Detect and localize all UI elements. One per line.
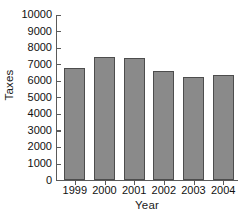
y-axis-tick-label: 4000	[8, 108, 52, 119]
y-axis-tick-mark	[56, 64, 61, 65]
y-axis-tick-mark	[56, 81, 61, 82]
y-axis-tick-mark	[56, 48, 61, 49]
bar	[64, 68, 85, 180]
y-axis-tick-label: 6000	[8, 75, 52, 86]
x-axis-tick-label: 2001	[119, 184, 149, 196]
y-axis-tick-mark	[56, 31, 61, 32]
x-axis-tick-label: 1999	[60, 184, 90, 196]
y-axis-tick-mark	[56, 114, 61, 115]
bar	[94, 57, 115, 180]
x-axis-tick-label: 2003	[179, 184, 209, 196]
bar-chart-figure: Taxes 1000090008000700060005000400030002…	[0, 0, 248, 219]
y-axis-tick-label: 5000	[8, 92, 52, 103]
y-axis-tick-label-group: 1000090008000700060005000400030002000100…	[8, 9, 52, 183]
x-axis-title: Year	[56, 199, 238, 211]
x-axis-line	[56, 180, 238, 181]
plot-area	[56, 15, 238, 182]
y-axis-tick-mark	[56, 97, 61, 98]
bar	[153, 71, 174, 179]
y-axis-tick-mark	[56, 164, 61, 165]
bar	[213, 75, 234, 179]
x-axis-tick-label: 2002	[149, 184, 179, 196]
bar	[183, 77, 204, 180]
y-axis-tick-mark	[56, 147, 61, 148]
y-axis-tick-label: 10000	[8, 9, 52, 20]
y-axis-tick-label: 9000	[8, 26, 52, 37]
y-axis-tick-label: 3000	[8, 125, 52, 136]
x-axis-tick-label: 2004	[208, 184, 238, 196]
y-axis-tick-mark	[56, 15, 61, 16]
y-axis-tick-label: 2000	[8, 141, 52, 152]
bar	[124, 58, 145, 180]
x-axis-tick-label-group: 199920002001200220032004	[56, 184, 238, 198]
y-axis-tick-label: 7000	[8, 59, 52, 70]
x-axis-tick-label: 2000	[90, 184, 120, 196]
y-axis-tick-label: 8000	[8, 42, 52, 53]
y-axis-tick-mark	[56, 130, 61, 131]
y-axis-tick-label: 0	[8, 175, 52, 186]
y-axis-tick-mark	[56, 180, 61, 181]
y-axis-tick-label: 1000	[8, 158, 52, 169]
